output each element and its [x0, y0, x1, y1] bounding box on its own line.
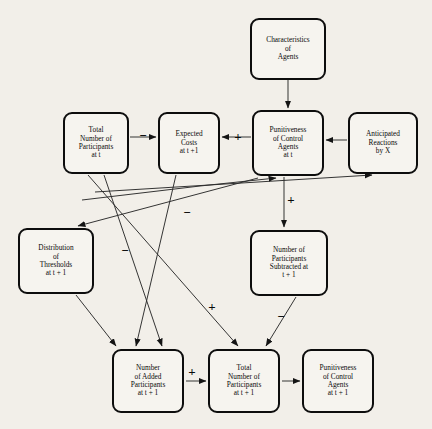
node-participants_subtracted: Number ofParticipantsSubtracted att + 1 [250, 230, 328, 296]
node-label-line: Agents [266, 53, 309, 61]
node-punitiveness_t1: Punitivenessof ControlAgentsat t + 1 [302, 349, 374, 413]
node-label-line: at t + 1 [38, 269, 73, 277]
node-label: Numberof AddedParticipantsat t + 1 [129, 364, 167, 398]
node-added_participants: Numberof AddedParticipantsat t + 1 [112, 349, 184, 413]
node-label: TotalNumber ofParticipantsat t + 1 [225, 364, 263, 398]
edge-expected-costs-to-added [136, 175, 176, 346]
node-label-line: t + 1 [270, 271, 308, 279]
sign-total-to-expected: − [139, 129, 146, 142]
sign-subtracted-to-total-t1: − [277, 310, 284, 323]
edge-total-participants-to-anticipated [95, 175, 372, 192]
node-label: Punitivenessof ControlAgentsat t [268, 126, 309, 160]
node-label: DistributionofThresholdsat t + 1 [36, 244, 75, 278]
node-expected_costs: ExpectedCostsat t +1 [158, 112, 220, 174]
node-label-line: at t [270, 151, 307, 159]
node-label-line: at t +1 [175, 147, 202, 155]
node-total_participants_t: TotalNumber ofParticipantsat t [63, 112, 129, 174]
node-label-line: at t + 1 [131, 389, 165, 397]
sign-expected-to-added: − [121, 244, 128, 257]
node-distribution_thresholds: DistributionofThresholdsat t + 1 [18, 228, 94, 294]
node-label-line: at t + 1 [227, 389, 261, 397]
node-punitiveness_t: Punitivenessof ControlAgentsat t [252, 110, 324, 176]
node-label: AnticipatedReactionsby X [364, 130, 402, 155]
edge-punitiveness-to-distribution [78, 178, 258, 226]
edge-distribution-to-added [76, 295, 116, 346]
edge-total-participants-to-total-t1 [88, 175, 238, 346]
sign-punitiveness-to-expected: + [234, 130, 241, 143]
node-label-line: at t + 1 [320, 389, 357, 397]
node-label: Number ofParticipantsSubtracted att + 1 [268, 246, 310, 280]
node-label: Punitivenessof ControlAgentsat t + 1 [318, 364, 359, 398]
node-label-line: by X [366, 147, 400, 155]
edge-total-participants-to-added [104, 175, 162, 346]
sign-total-to-total-t1: + [208, 300, 215, 313]
node-label: CharacteristicsofAgents [264, 36, 311, 61]
node-characteristics: CharacteristicsofAgents [250, 18, 326, 80]
node-anticipated_reactions: AnticipatedReactionsby X [348, 112, 418, 174]
node-label: TotalNumber ofParticipantsat t [77, 126, 115, 160]
sign-total-to-added: − [183, 206, 190, 219]
diagram-canvas: CharacteristicsofAgentsTotalNumber ofPar… [0, 0, 432, 429]
node-label-line: at t [79, 151, 113, 159]
sign-added-to-total-t1: + [188, 365, 195, 378]
sign-punitiveness-to-subtracted: + [287, 193, 294, 206]
node-total_participants_t1: TotalNumber ofParticipantsat t + 1 [208, 349, 280, 413]
node-label: ExpectedCostsat t +1 [173, 130, 204, 155]
